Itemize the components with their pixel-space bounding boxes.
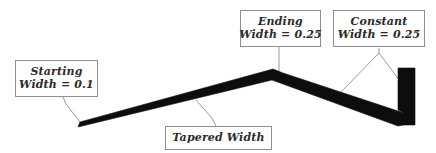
callout-line-2: Width = 0.25 [239,29,322,42]
starting-width-callout[interactable]: Starting Width = 0.1 [15,60,98,97]
callout-line-2: Width = 0.25 [338,29,421,42]
figure-canvas: Starting Width = 0.1 Ending Width = 0.25… [0,0,436,153]
callout-line-2: Width = 0.1 [19,79,94,92]
ending-width-callout[interactable]: Ending Width = 0.25 [240,10,321,47]
constant-width-callout[interactable]: Constant Width = 0.25 [333,10,425,47]
leader-line-tapered [196,100,216,126]
callout-line-1: Starting [30,66,82,79]
leader-line-starting [63,97,83,126]
leader-line-constant-left [341,48,379,92]
callout-line-1: Constant [351,16,408,29]
tapered-width-callout[interactable]: Tapered Width [165,126,272,150]
callout-line-1: Ending [258,16,303,29]
callout-line-1: Tapered Width [172,132,264,145]
